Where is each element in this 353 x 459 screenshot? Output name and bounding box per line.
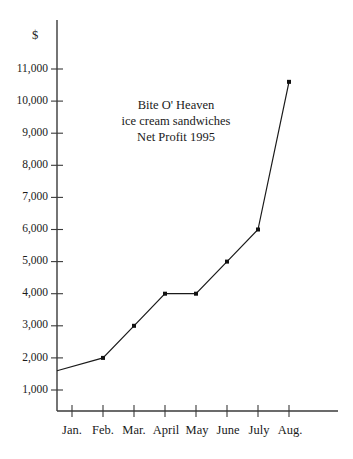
y-tick-label: 9,000 (22, 126, 48, 139)
y-tick-label: 6,000 (22, 222, 48, 235)
y-tick-label: 4,000 (22, 286, 48, 299)
chart-page: 1,000 2,000 3,000 4,000 5,000 6,000 7,00… (0, 0, 353, 459)
data-point-marker (256, 228, 260, 232)
data-point-marker (101, 356, 105, 360)
y-tick-label: 2,000 (22, 351, 48, 364)
y-tick-label: 3,000 (22, 318, 48, 331)
line-chart: 1,000 2,000 3,000 4,000 5,000 6,000 7,00… (0, 0, 353, 459)
y-tick-label: 11,000 (17, 62, 48, 75)
y-tick-label: 1,000 (22, 383, 48, 396)
y-tick-label: 5,000 (22, 254, 48, 267)
y-tick-label: 10,000 (16, 94, 48, 107)
x-tick-label: Feb. (92, 423, 114, 437)
y-tick-label: 7,000 (22, 190, 48, 203)
x-tick-label: April (153, 423, 180, 437)
y-axis-tick-labels: 1,000 2,000 3,000 4,000 5,000 6,000 7,00… (16, 62, 48, 396)
chart-title-line-1: Bite O' Heaven (138, 98, 215, 112)
x-tick-label: Aug. (278, 423, 303, 437)
chart-title-line-3: Net Profit 1995 (137, 130, 215, 144)
y-axis-unit-label: $ (32, 28, 38, 42)
data-point-marker (132, 324, 136, 328)
chart-title: Bite O' Heaven ice cream sandwiches Net … (122, 98, 231, 144)
x-tick-label: June (217, 423, 240, 437)
x-tick-label: May (186, 423, 210, 437)
data-point-marker (287, 80, 291, 84)
chart-axes (57, 20, 338, 411)
x-tick-label: Jan. (62, 423, 82, 437)
y-tick-label: 8,000 (22, 158, 48, 171)
x-tick-label: July (249, 423, 271, 437)
x-axis-tick-labels: Jan. Feb. Mar. April May June July Aug. (62, 423, 302, 437)
data-point-marker (194, 292, 198, 296)
data-point-marker (225, 260, 229, 264)
chart-title-line-2: ice cream sandwiches (122, 114, 231, 128)
data-point-marker (163, 292, 167, 296)
x-tick-label: Mar. (122, 423, 145, 437)
